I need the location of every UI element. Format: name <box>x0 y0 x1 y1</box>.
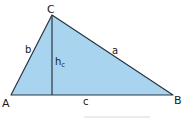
vertex-label-a: A <box>2 97 10 110</box>
side-label-a: a <box>112 45 118 56</box>
triangle-diagram: C A B b a c hc <box>0 0 184 118</box>
side-label-c: c <box>83 96 89 107</box>
vertex-label-c: C <box>47 3 55 16</box>
side-label-b: b <box>25 44 31 55</box>
triangle-abc <box>11 15 173 95</box>
vertex-label-b: B <box>174 94 182 107</box>
altitude-label-subscript: c <box>61 61 65 69</box>
